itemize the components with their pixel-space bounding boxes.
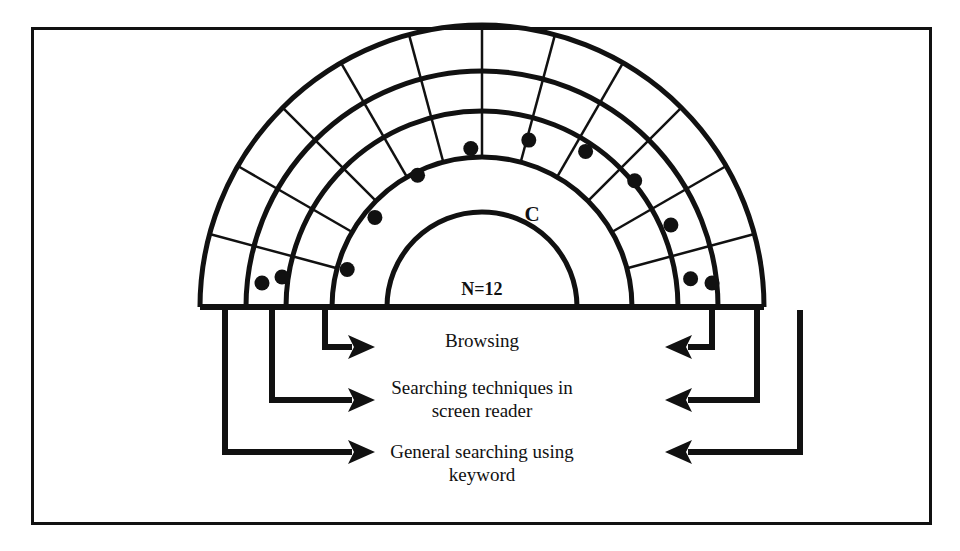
arrow-left-icon [665, 388, 692, 412]
sector-dot [663, 218, 678, 233]
sector-dot [367, 210, 382, 225]
flow-label-general-line1: General searching using [390, 441, 574, 462]
flow-labels: Browsing Searching techniques in screen … [390, 330, 574, 485]
connector-left-general [225, 310, 375, 464]
sector-dot [275, 270, 290, 285]
arrow-left-icon [665, 440, 692, 464]
arrow-right-icon [348, 388, 375, 412]
ring-label-n: N=12 [461, 279, 502, 299]
flow-label-general-line2: keyword [449, 464, 516, 485]
sector-grid [200, 25, 764, 307]
sector-dot [705, 276, 720, 291]
sector-dot [410, 168, 425, 183]
sector-dot [683, 271, 698, 286]
ring-diagram: C N=12 [200, 25, 764, 307]
connector-left-browsing [325, 310, 375, 359]
sector-dot [627, 173, 642, 188]
sector-dot [578, 144, 593, 159]
connector-right-general [665, 310, 800, 464]
flow-label-browsing: Browsing [445, 330, 519, 351]
flow-label-searching-line1: Searching techniques in [391, 377, 573, 398]
sector-dot [340, 262, 355, 277]
arrow-right-icon [348, 335, 375, 359]
sector-dot [521, 133, 536, 148]
radial-dividers [200, 25, 764, 307]
left-connectors [225, 310, 375, 464]
arrow-right-icon [348, 440, 375, 464]
sector-dot [255, 276, 270, 291]
right-connectors [665, 310, 800, 464]
connector-right-browsing [665, 310, 712, 359]
sector-dot [463, 141, 478, 156]
flow-label-searching-line2: screen reader [432, 400, 533, 421]
arrow-left-icon [665, 335, 692, 359]
semicircle-flow-diagram: C N=12 [0, 0, 960, 551]
ring-label-c: C [524, 202, 539, 226]
figure-page: C N=12 [0, 0, 960, 551]
